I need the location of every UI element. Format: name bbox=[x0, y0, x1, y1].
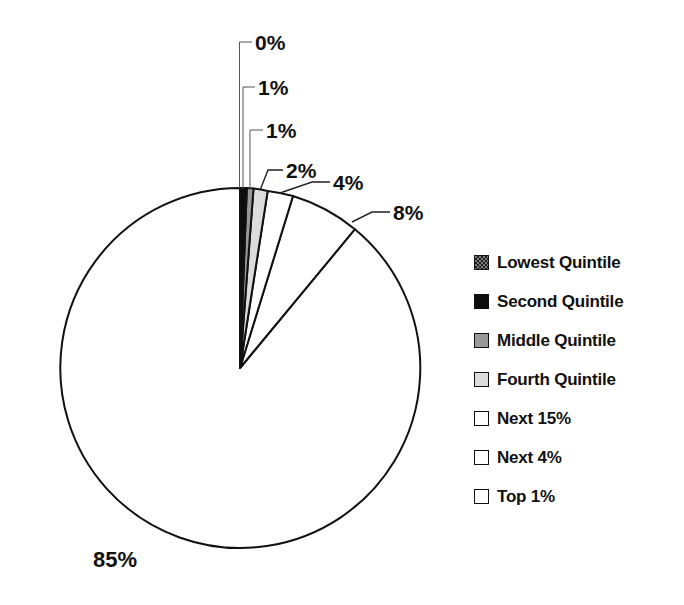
data-label-4-percent: 4% bbox=[333, 171, 364, 194]
legend-swatch-second-quintile bbox=[474, 294, 489, 309]
chart-legend: Lowest Quintile Second Quintile Middle Q… bbox=[474, 243, 674, 516]
data-label-1-percent-second: 1% bbox=[258, 76, 289, 99]
leader-line-8-percent bbox=[352, 212, 390, 222]
legend-item-top-1-percent[interactable]: Top 1% bbox=[474, 477, 674, 516]
leader-line-2-percent bbox=[261, 170, 284, 189]
legend-label-second-quintile: Second Quintile bbox=[497, 292, 623, 312]
legend-swatch-next-15-percent bbox=[474, 411, 489, 426]
data-label-85-percent: 85% bbox=[93, 547, 137, 572]
legend-item-fourth-quintile[interactable]: Fourth Quintile bbox=[474, 360, 674, 399]
legend-item-next-15-percent[interactable]: Next 15% bbox=[474, 399, 674, 438]
legend-item-second-quintile[interactable]: Second Quintile bbox=[474, 282, 674, 321]
legend-swatch-next-4-percent bbox=[474, 450, 489, 465]
legend-label-middle-quintile: Middle Quintile bbox=[497, 331, 616, 351]
data-label-2-percent: 2% bbox=[286, 159, 317, 182]
legend-label-fourth-quintile: Fourth Quintile bbox=[497, 370, 616, 390]
leader-line-4-percent bbox=[280, 182, 330, 193]
data-label-8-percent: 8% bbox=[393, 201, 424, 224]
legend-item-next-4-percent[interactable]: Next 4% bbox=[474, 438, 674, 477]
legend-label-top-1-percent: Top 1% bbox=[497, 487, 555, 507]
legend-label-next-15-percent: Next 15% bbox=[497, 409, 571, 429]
legend-item-middle-quintile[interactable]: Middle Quintile bbox=[474, 321, 674, 360]
leader-line-1-percent-second bbox=[243, 87, 255, 189]
legend-swatch-fourth-quintile bbox=[474, 372, 489, 387]
legend-item-lowest-quintile[interactable]: Lowest Quintile bbox=[474, 243, 674, 282]
pie-chart-page: 0% 1% 1% 2% 4% 8% 85% Lowest Quintile Se… bbox=[0, 0, 684, 605]
legend-swatch-middle-quintile bbox=[474, 333, 489, 348]
legend-swatch-lowest-quintile bbox=[474, 255, 489, 270]
legend-label-lowest-quintile: Lowest Quintile bbox=[497, 253, 621, 273]
legend-label-next-4-percent: Next 4% bbox=[497, 448, 562, 468]
legend-swatch-top-1-percent bbox=[474, 489, 489, 504]
data-label-0-percent: 0% bbox=[255, 31, 286, 54]
data-label-1-percent-middle: 1% bbox=[266, 119, 297, 142]
pie-slices bbox=[60, 188, 420, 548]
leader-line-1-percent-middle bbox=[250, 130, 263, 189]
